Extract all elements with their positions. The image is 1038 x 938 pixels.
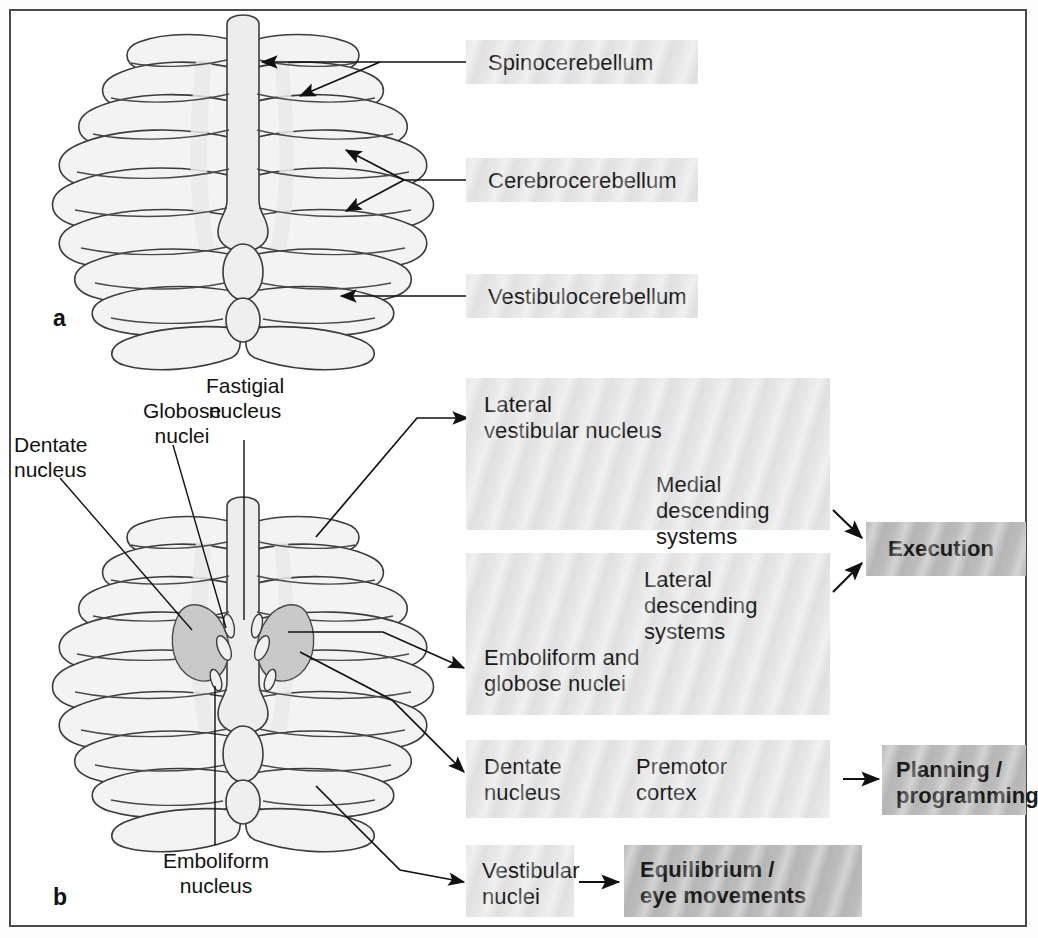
pathway-source-vestibular-nuclei: Vestibular nuclei	[482, 858, 580, 910]
label-fastigial-nucleus: Fastigial nucleus	[182, 373, 308, 423]
pathway-source-lateral-vestibular: Lateral vestibular nucleus	[484, 392, 662, 444]
label-box-vestibulocerebellum: Vestibulocerebellum	[466, 274, 698, 318]
outcome-execution: Execution	[888, 536, 994, 562]
label-emboliform-nucleus: Emboliform nucleus	[136, 848, 296, 898]
pathway-target-medial-descending: Medial descending systems	[656, 472, 830, 550]
label-vestibulocerebellum: Vestibulocerebellum	[488, 284, 687, 310]
outcome-box-execution: Execution	[866, 522, 1026, 576]
panel-letter-a: a	[53, 305, 66, 332]
label-box-spinocerebellum: Spinocerebellum	[466, 40, 698, 84]
label-spinocerebellum: Spinocerebellum	[488, 50, 653, 76]
outcome-box-planning-programming: Planning / programming	[882, 745, 1026, 815]
pathway-target-premotor-cortex: Premotor cortex	[636, 754, 727, 806]
pathway-box-lateral-vestibular: Lateral vestibular nucleus Medial descen…	[466, 378, 830, 530]
outcome-box-equilibrium-eye-movements: Equilibrium / eye movements	[624, 845, 862, 917]
pathway-target-lateral-descending: Lateral descending systems	[644, 567, 830, 645]
figure-root: Spinocerebellum Cerebrocerebellum Vestib…	[0, 0, 1038, 938]
pathway-source-emboliform-globose: Emboliform and globose nuclei	[484, 645, 639, 697]
pathway-source-dentate: Dentate nucleus	[484, 754, 562, 806]
pathway-box-vestibular: Vestibular nuclei	[466, 845, 574, 917]
label-box-cerebrocerebellum: Cerebrocerebellum	[466, 158, 698, 202]
pathway-box-dentate: Dentate nucleus Premotor cortex	[466, 740, 830, 818]
outcome-equilibrium-eye-movements: Equilibrium / eye movements	[640, 857, 806, 909]
pathway-box-emboliform-globose: Lateral descending systems Emboliform an…	[466, 553, 830, 715]
panel-letter-b: b	[53, 884, 67, 911]
outcome-planning-programming: Planning / programming	[896, 757, 1038, 809]
label-cerebrocerebellum: Cerebrocerebellum	[488, 168, 677, 194]
